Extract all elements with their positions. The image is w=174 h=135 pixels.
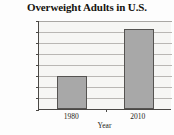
chart-title: Overweight Adults in U.S. — [0, 1, 174, 13]
y-axis-tick — [36, 54, 39, 55]
bar-2010 — [124, 29, 154, 109]
chart-figure: Overweight Adults in U.S. Percent Year 0… — [0, 0, 174, 135]
x-axis-title: Year — [38, 121, 171, 130]
bar-1980 — [57, 76, 87, 109]
y-axis-tick — [36, 65, 39, 66]
y-axis-tick — [36, 87, 39, 88]
x-axis-tick — [106, 109, 107, 112]
plot-inner — [39, 21, 171, 109]
y-axis-tick — [36, 98, 39, 99]
y-axis-tick — [36, 21, 39, 22]
x-axis-tick-label: 1980 — [48, 112, 94, 121]
y-axis-tick — [36, 43, 39, 44]
plot-area — [38, 21, 171, 110]
gridline — [39, 21, 172, 22]
y-axis-tick — [36, 32, 39, 33]
y-axis-tick — [36, 76, 39, 77]
y-axis-tick — [36, 110, 39, 111]
x-axis-tick-label: 2010 — [115, 112, 161, 121]
